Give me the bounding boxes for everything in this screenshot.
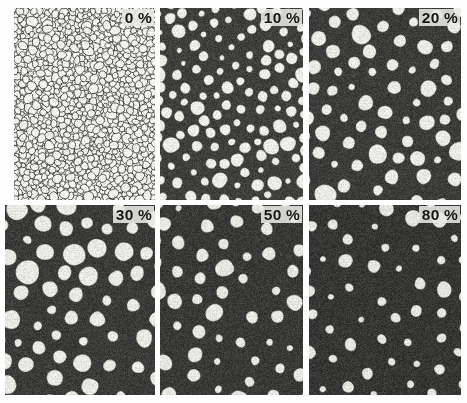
figure-root: 0 %10 %20 %30 %50 %80 % — [0, 0, 467, 403]
micrograph-image-10 — [160, 8, 303, 200]
micrograph-image-80 — [309, 205, 461, 395]
micrograph-panel-0: 0 % — [14, 8, 155, 200]
panel-label-0: 0 % — [122, 9, 154, 26]
micrograph-panel-10: 10 % — [160, 8, 303, 200]
micrograph-image-50 — [160, 205, 303, 395]
panel-label-10: 10 % — [261, 9, 302, 26]
panel-label-20: 20 % — [419, 9, 460, 26]
panel-label-50: 50 % — [261, 206, 302, 223]
micrograph-image-0 — [14, 8, 155, 200]
micrograph-panel-50: 50 % — [160, 205, 303, 395]
micrograph-image-20 — [309, 8, 461, 200]
micrograph-panel-80: 80 % — [309, 205, 461, 395]
micrograph-panel-30: 30 % — [5, 205, 155, 395]
micrograph-panel-20: 20 % — [309, 8, 461, 200]
micrograph-image-30 — [5, 205, 155, 395]
panel-label-30: 30 % — [113, 206, 154, 223]
panel-label-80: 80 % — [419, 206, 460, 223]
